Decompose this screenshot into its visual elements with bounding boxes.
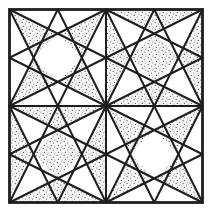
bottom-left-edge-top [10,106,107,130]
top-left-arm-br [58,58,106,106]
quilt-svg [0,0,212,209]
bottom-right-arm-tl [106,106,154,154]
bottom-right-arm-bl [106,154,154,202]
bottom-left-edge-left [10,106,34,203]
top-right-edge-bottom [106,82,203,106]
top-left-arm-tl [10,10,58,58]
bottom-left-edge-right [82,106,106,203]
quilt-diagram [0,0,212,209]
top-left-arm-bl [10,58,58,106]
bottom-left-center-diamond [34,130,82,178]
top-right-edge-left [106,10,130,107]
bottom-right-arm-br [154,154,202,202]
top-right-center-diamond [130,34,178,82]
top-right-edge-right [178,10,202,107]
top-right-edge-top [106,10,203,34]
bottom-right-arm-tr [154,106,202,154]
top-left-arm-tr [58,10,106,58]
bottom-left-edge-bottom [10,178,107,202]
